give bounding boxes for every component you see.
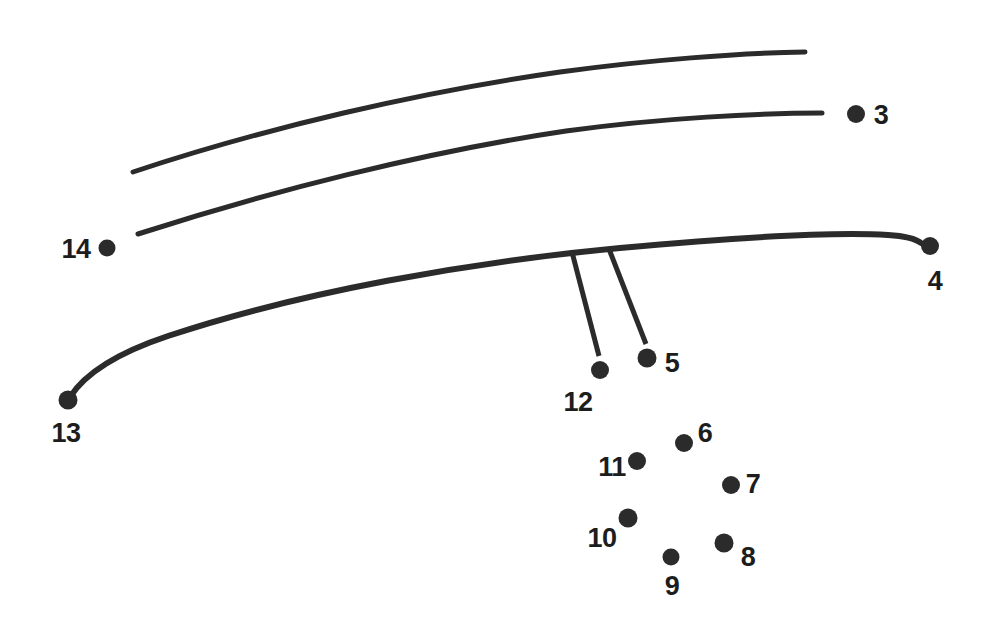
- point-label-11: 11: [598, 454, 626, 481]
- point-marker-12[interactable]: [591, 361, 609, 379]
- point-marker-8[interactable]: [715, 534, 734, 553]
- point-label-9: 9: [665, 573, 680, 600]
- point-label-7: 7: [746, 471, 761, 498]
- point-marker-3[interactable]: [847, 105, 865, 123]
- upper-curve: [133, 52, 805, 172]
- point-marker-7[interactable]: [722, 476, 740, 494]
- point-marker-4[interactable]: [921, 237, 939, 255]
- point-marker-6[interactable]: [675, 434, 693, 452]
- leader-to-12: [572, 252, 599, 356]
- point-label-6: 6: [698, 420, 713, 447]
- lower-curve: [70, 234, 921, 397]
- point-label-4: 4: [928, 268, 943, 295]
- point-label-3: 3: [874, 102, 889, 129]
- point-label-10: 10: [587, 525, 616, 552]
- leader-to-5: [609, 249, 646, 344]
- point-marker-10[interactable]: [619, 509, 638, 528]
- point-label-14: 14: [61, 236, 90, 263]
- point-marker-5[interactable]: [638, 349, 657, 368]
- middle-curve: [138, 113, 822, 234]
- figure-canvas: 34567891011121314: [0, 0, 998, 640]
- point-label-13: 13: [51, 420, 80, 447]
- point-label-5: 5: [665, 350, 680, 377]
- point-label-12: 12: [563, 389, 592, 416]
- point-marker-13[interactable]: [59, 391, 78, 410]
- figure-vector-layer: [0, 0, 998, 640]
- point-marker-9[interactable]: [663, 549, 680, 566]
- point-marker-14[interactable]: [99, 240, 116, 257]
- point-marker-11[interactable]: [628, 452, 646, 470]
- point-label-8: 8: [741, 544, 756, 571]
